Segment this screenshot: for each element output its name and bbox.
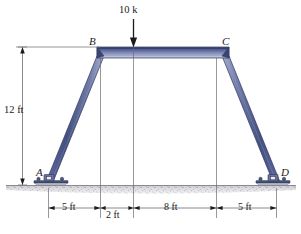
vertical-dimension-label: 12 ft (4, 105, 24, 116)
horizontal-dimension-label-4: 5 ft (238, 202, 252, 212)
extension-lines (49, 30, 277, 218)
vertical-dimension-12ft (18, 47, 27, 185)
horizontal-dimension-label-3: 8 ft (164, 202, 178, 212)
annotation-layer (0, 0, 301, 234)
horizontal-dimension-label-1: 5 ft (62, 202, 76, 212)
structural-frame-figure: 10 k B C A D 12 ft 5 ft 2 ft 8 ft 5 ft (0, 0, 301, 234)
load-label: 10 k (119, 5, 137, 16)
joint-label-A: A (36, 167, 43, 178)
joint-label-D: D (281, 167, 289, 178)
horizontal-dimension-label-2: 2 ft (106, 210, 120, 220)
load-arrow-10k (130, 19, 137, 48)
joint-label-B: B (89, 36, 96, 47)
joint-label-C: C (222, 36, 229, 47)
